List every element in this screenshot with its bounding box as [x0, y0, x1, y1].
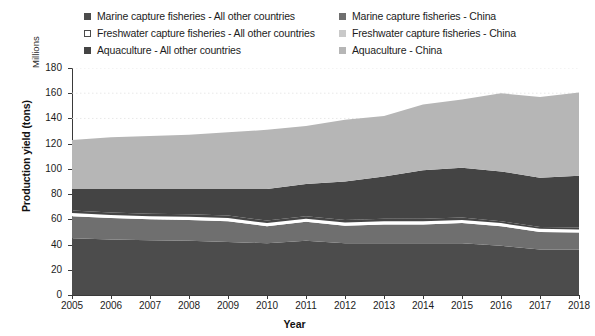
x-axis-title: Year	[0, 318, 589, 330]
y-axis-tick-label: 180	[28, 62, 62, 73]
plot-area	[72, 68, 579, 295]
x-axis-tick-mark	[384, 295, 385, 299]
x-axis-tick-mark	[111, 295, 112, 299]
x-axis-tick-label: 2012	[325, 300, 365, 311]
x-axis-tick-mark	[501, 295, 502, 299]
y-axis-tick-label: 60	[28, 213, 62, 224]
x-axis-tick-label: 2009	[208, 300, 248, 311]
legend-label: Marine capture fisheries - All other cou…	[97, 11, 295, 22]
y-axis-tick-label: 20	[28, 264, 62, 275]
x-axis-line	[72, 295, 580, 296]
y-axis-title: Production yield (tons)	[20, 86, 32, 226]
legend-swatch-icon	[84, 13, 91, 20]
x-axis-tick-label: 2008	[169, 300, 209, 311]
x-axis-tick-mark	[462, 295, 463, 299]
legend-item[interactable]: Aquaculture - China	[339, 42, 589, 59]
x-axis-tick-label: 2007	[130, 300, 170, 311]
legend-swatch-icon	[339, 47, 346, 54]
y-axis-tick-label: 80	[28, 188, 62, 199]
x-axis-tick-label: 2005	[52, 300, 92, 311]
x-axis-tick-label: 2011	[286, 300, 326, 311]
legend-swatch-icon	[84, 47, 91, 54]
x-axis-tick-mark	[228, 295, 229, 299]
legend-item[interactable]: Marine capture fisheries - All other cou…	[84, 8, 339, 25]
legend-item[interactable]: Aquaculture - All other countries	[84, 42, 339, 59]
x-axis-tick-mark	[345, 295, 346, 299]
x-axis-tick-label: 2017	[520, 300, 560, 311]
x-axis-tick-mark	[267, 295, 268, 299]
x-axis-tick-label: 2018	[559, 300, 595, 311]
chart-legend: Marine capture fisheries - All other cou…	[84, 8, 589, 60]
legend-swatch-icon	[339, 30, 346, 37]
legend-label: Freshwater capture fisheries - China	[352, 28, 516, 39]
legend-label: Aquaculture - China	[352, 45, 442, 56]
x-axis-tick-mark	[423, 295, 424, 299]
legend-swatch-icon	[339, 13, 346, 20]
legend-swatch-icon	[84, 30, 91, 37]
legend-label: Marine capture fisheries - China	[352, 11, 496, 22]
legend-item[interactable]: Freshwater capture fisheries - All other…	[84, 25, 339, 42]
x-axis-tick-label: 2006	[91, 300, 131, 311]
y-axis-tick-label: 120	[28, 138, 62, 149]
legend-item[interactable]: Freshwater capture fisheries - China	[339, 25, 589, 42]
x-axis-tick-mark	[189, 295, 190, 299]
x-axis-tick-label: 2010	[247, 300, 287, 311]
area-series	[72, 238, 579, 295]
x-axis-tick-mark	[150, 295, 151, 299]
x-axis-tick-label: 2014	[403, 300, 443, 311]
x-axis-tick-mark	[540, 295, 541, 299]
x-axis-tick-mark	[306, 295, 307, 299]
x-axis-tick-label: 2013	[364, 300, 404, 311]
x-axis-tick-label: 2016	[481, 300, 521, 311]
legend-label: Aquaculture - All other countries	[97, 45, 241, 56]
y-axis-tick-label: 140	[28, 112, 62, 123]
legend-label: Freshwater capture fisheries - All other…	[97, 28, 315, 39]
y-axis-tick-label: 100	[28, 163, 62, 174]
x-axis-tick-mark	[72, 295, 73, 299]
y-axis-tick-label: 160	[28, 87, 62, 98]
legend-item[interactable]: Marine capture fisheries - China	[339, 8, 589, 25]
x-axis-tick-mark	[579, 295, 580, 299]
plot-svg	[72, 68, 579, 295]
y-axis-tick-label: 0	[28, 289, 62, 300]
y-axis-tick-label: 40	[28, 239, 62, 250]
x-axis-tick-label: 2015	[442, 300, 482, 311]
